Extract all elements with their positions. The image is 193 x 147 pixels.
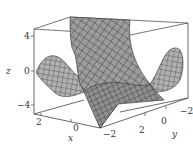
z-axis-label: z xyxy=(5,66,11,76)
y-axis xyxy=(145,106,166,116)
surface-plot: 4 0 −4 z 2 0 −2 x 2 0 −2 y xyxy=(0,0,193,147)
y-tick-neg2: −2 xyxy=(180,106,193,116)
surface-right-lobe xyxy=(150,48,183,92)
z-axis xyxy=(31,36,34,105)
x-tick-neg2: −2 xyxy=(103,129,116,139)
y-axis-label: y xyxy=(171,129,178,139)
x-axis-label: x xyxy=(68,133,73,143)
y-tick-0: 0 xyxy=(161,116,167,126)
z-tick-neg4: −4 xyxy=(17,100,31,110)
z-tick-4: 4 xyxy=(24,31,30,41)
y-tick-2: 2 xyxy=(139,125,145,135)
z-tick-0: 0 xyxy=(24,66,30,76)
x-tick-2: 2 xyxy=(36,117,42,127)
x-tick-0: 0 xyxy=(73,123,79,133)
